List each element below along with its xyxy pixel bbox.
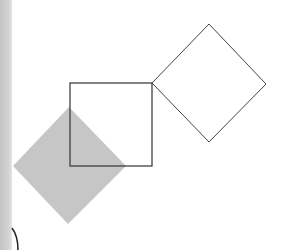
outlined-diamond <box>152 24 266 142</box>
page-edge-curve <box>12 228 18 250</box>
geometry-diagram <box>0 0 289 250</box>
